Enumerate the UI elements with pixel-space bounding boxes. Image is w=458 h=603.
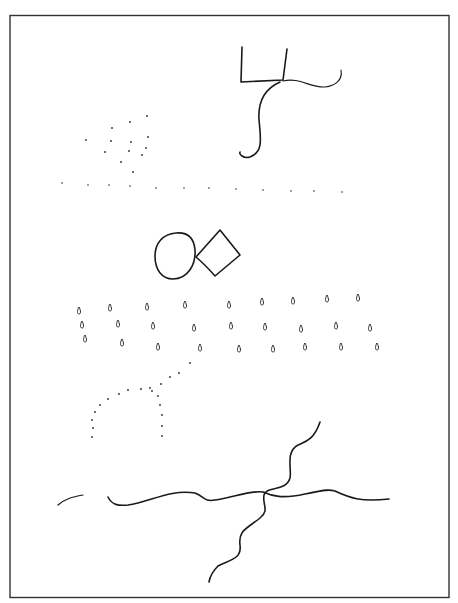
dot bbox=[161, 425, 163, 427]
dot bbox=[107, 398, 109, 400]
dot bbox=[290, 190, 292, 192]
horizontal-wavy-line bbox=[108, 490, 389, 505]
dot bbox=[132, 171, 134, 173]
dot bbox=[129, 121, 131, 123]
dot bbox=[145, 147, 147, 149]
dot bbox=[341, 191, 343, 193]
dot bbox=[91, 419, 93, 421]
open-box-with-tail bbox=[240, 47, 341, 157]
dot bbox=[178, 372, 180, 374]
dot bbox=[161, 435, 163, 437]
dot bbox=[94, 411, 96, 413]
dot-row bbox=[61, 182, 343, 193]
tilted-square bbox=[196, 230, 240, 276]
teardrop-mark bbox=[184, 301, 187, 308]
circle-and-diamond bbox=[155, 230, 240, 279]
teardrop-mark bbox=[326, 295, 329, 302]
dot-cluster bbox=[85, 115, 149, 173]
figure-canvas bbox=[0, 0, 458, 603]
dot bbox=[111, 127, 113, 129]
dot bbox=[91, 436, 93, 438]
dot bbox=[104, 151, 106, 153]
dot bbox=[61, 182, 63, 184]
dot bbox=[99, 404, 101, 406]
dot bbox=[140, 388, 142, 390]
teardrop-mark bbox=[146, 303, 149, 310]
dot bbox=[128, 150, 130, 152]
dot bbox=[189, 362, 191, 364]
teardrop-mark bbox=[300, 325, 303, 332]
teardrop-mark bbox=[84, 335, 87, 342]
dot bbox=[85, 139, 87, 141]
dotted-arc bbox=[91, 362, 191, 438]
crossing-wavy-lines bbox=[58, 422, 389, 582]
horizontal-wavy-line-left bbox=[58, 495, 83, 505]
teardrop-mark bbox=[157, 343, 160, 350]
teardrop-mark bbox=[335, 322, 338, 329]
teardrop-mark bbox=[81, 321, 84, 328]
dot bbox=[110, 140, 112, 142]
teardrop-mark bbox=[264, 323, 267, 330]
teardrop-mark bbox=[304, 343, 307, 350]
dot bbox=[161, 414, 163, 416]
dot bbox=[146, 115, 148, 117]
teardrop-mark bbox=[357, 294, 360, 301]
dot bbox=[313, 190, 315, 192]
teardrop-grid bbox=[78, 294, 379, 352]
teardrop-mark bbox=[78, 307, 81, 314]
teardrop-mark bbox=[376, 343, 379, 350]
teardrop-mark bbox=[193, 324, 196, 331]
dot bbox=[147, 136, 149, 138]
teardrop-mark bbox=[272, 345, 275, 352]
teardrop-mark bbox=[117, 320, 120, 327]
dot bbox=[108, 184, 110, 186]
teardrop-mark bbox=[121, 339, 124, 346]
teardrop-mark bbox=[340, 343, 343, 350]
teardrop-mark bbox=[292, 297, 295, 304]
teardrop-mark bbox=[230, 322, 233, 329]
dot bbox=[127, 389, 129, 391]
dot bbox=[155, 187, 157, 189]
dot bbox=[141, 154, 143, 156]
teardrop-mark bbox=[369, 324, 372, 331]
dot bbox=[129, 185, 131, 187]
dot bbox=[160, 383, 162, 385]
diagonal-wavy-line bbox=[209, 422, 320, 582]
dot bbox=[159, 404, 161, 406]
teardrop-mark bbox=[261, 298, 264, 305]
dot bbox=[262, 189, 264, 191]
dot bbox=[169, 376, 171, 378]
dot bbox=[157, 395, 159, 397]
dot bbox=[130, 141, 132, 143]
dot bbox=[120, 161, 122, 163]
dot bbox=[208, 187, 210, 189]
figure-frame bbox=[10, 16, 449, 598]
irregular-circle bbox=[155, 233, 195, 279]
teardrop-mark bbox=[238, 345, 241, 352]
dot bbox=[183, 187, 185, 189]
dot bbox=[149, 387, 151, 389]
teardrop-mark bbox=[109, 304, 112, 311]
teardrop-mark bbox=[152, 322, 155, 329]
dot bbox=[118, 393, 120, 395]
teardrop-mark bbox=[228, 301, 231, 308]
dot bbox=[151, 390, 153, 392]
dot bbox=[235, 188, 237, 190]
dot bbox=[92, 427, 94, 429]
teardrop-mark bbox=[199, 344, 202, 351]
dot bbox=[87, 184, 89, 186]
